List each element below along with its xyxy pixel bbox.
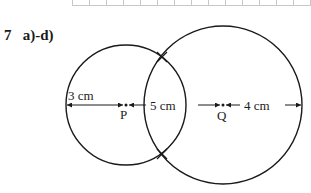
two-circles-figure: 3 cm 5 cm 4 cm P Q — [0, 0, 311, 193]
intersection-mark-bottom — [157, 149, 167, 159]
point-q-dot — [222, 104, 225, 107]
pq-distance-label: 5 cm — [150, 98, 176, 113]
right-radius-label: 4 cm — [244, 98, 270, 113]
left-radius-label: 3 cm — [68, 88, 94, 103]
point-q-label: Q — [217, 108, 227, 123]
point-p-label: P — [120, 107, 127, 122]
intersection-mark-top — [157, 52, 167, 62]
